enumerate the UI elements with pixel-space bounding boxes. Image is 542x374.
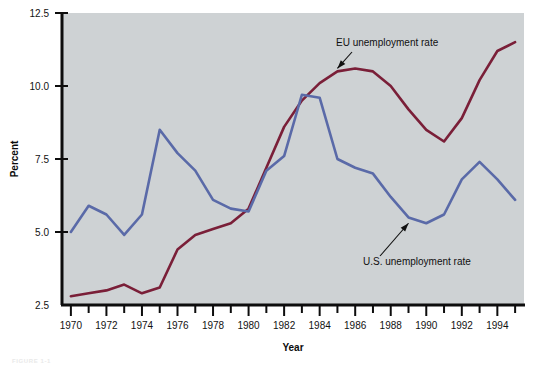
y-axis-tick-label: 7.5 bbox=[35, 154, 49, 165]
y-axis-tick-label: 12.5 bbox=[30, 8, 50, 19]
x-axis-tick-label: 1978 bbox=[202, 320, 225, 331]
unemployment-line-chart: 2.55.07.510.012.519701972197419761978198… bbox=[0, 0, 542, 374]
y-axis-tick-label: 5.0 bbox=[35, 227, 49, 238]
x-axis-tick-label: 1976 bbox=[166, 320, 189, 331]
x-axis-tick-label: 1992 bbox=[451, 320, 474, 331]
x-axis-tick-label: 1994 bbox=[486, 320, 509, 331]
figure-container: 2.55.07.510.012.519701972197419761978198… bbox=[0, 0, 542, 374]
y-axis-title: Percent bbox=[9, 140, 20, 177]
x-axis-tick-label: 1970 bbox=[60, 320, 83, 331]
y-axis-tick-label: 10.0 bbox=[30, 81, 50, 92]
x-axis-tick-label: 1980 bbox=[237, 320, 260, 331]
x-axis-tick-label: 1972 bbox=[95, 320, 118, 331]
x-axis-tick-label: 1986 bbox=[344, 320, 367, 331]
x-axis-tick-label: 1974 bbox=[131, 320, 154, 331]
annotation-label-eu: EU unemployment rate bbox=[336, 37, 439, 48]
x-axis-tick-label: 1990 bbox=[415, 320, 438, 331]
x-axis-title: Year bbox=[282, 342, 303, 353]
x-axis-tick-label: 1984 bbox=[309, 320, 332, 331]
annotation-label-us: U.S. unemployment rate bbox=[363, 256, 471, 267]
x-axis-tick-label: 1982 bbox=[273, 320, 296, 331]
figure-caption: FIGURE 1-1 bbox=[12, 358, 51, 364]
x-axis-tick-label: 1988 bbox=[380, 320, 403, 331]
y-axis-tick-label: 2.5 bbox=[35, 300, 49, 311]
